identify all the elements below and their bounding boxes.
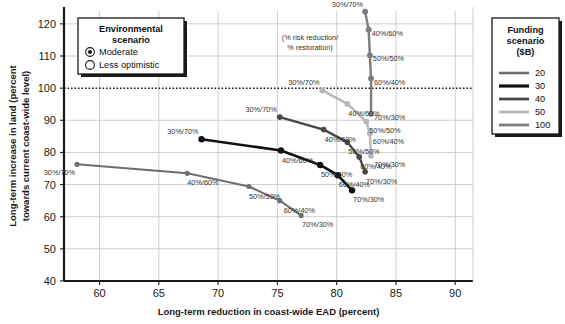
env-legend-title-line-2: scenario xyxy=(112,35,150,45)
funding-legend-title-line-1: Funding xyxy=(507,25,543,35)
env-radio-option-moderate[interactable]: Moderate xyxy=(86,47,138,57)
environmental-scenario-legend[interactable]: EnvironmentalscenarioModerateLess optimi… xyxy=(78,18,187,77)
data-point-label: 40%/60% xyxy=(282,156,314,165)
y-tick-label: 50 xyxy=(44,243,56,255)
data-point xyxy=(363,119,369,125)
radio-selected-dot-icon xyxy=(88,50,92,54)
data-point xyxy=(362,9,368,15)
data-point-label: 50%/50% xyxy=(369,126,401,135)
data-point-label: 70%/30% xyxy=(374,160,406,169)
y-tick-label: 110 xyxy=(38,50,56,62)
funding-legend-label: 100 xyxy=(535,120,550,130)
data-point xyxy=(320,87,326,93)
data-point-label: 30%/70% xyxy=(288,78,320,87)
funding-scenario-legend: Fundingscenario($B)20304050100 xyxy=(492,18,562,137)
x-tick-label: 90 xyxy=(449,287,461,299)
data-point xyxy=(278,147,284,153)
y-axis-tick-labels: 405060708090100110120 xyxy=(38,18,64,287)
x-tick-label: 60 xyxy=(93,287,105,299)
data-point-label: 50%/50% xyxy=(249,192,281,201)
data-point xyxy=(74,162,79,167)
data-point-label: 50%/50% xyxy=(348,147,380,156)
data-point xyxy=(277,114,283,120)
data-point-label: 30%/70% xyxy=(44,168,76,177)
data-point-label: 60%/40% xyxy=(284,206,316,215)
data-point xyxy=(344,101,350,107)
x-tick-label: 85 xyxy=(390,287,402,299)
chart-svg: 60657075808590 405060708090100110120 30%… xyxy=(0,0,565,324)
series-20 xyxy=(74,162,303,218)
funding-legend-label: 50 xyxy=(535,107,545,117)
y-axis-title-line-2: towards current coast-wide level) xyxy=(20,71,31,221)
data-point xyxy=(198,136,204,142)
data-point-label: 30%/70% xyxy=(246,105,278,114)
data-point-label: 70%/30% xyxy=(366,177,398,186)
data-point-label: 40%/60% xyxy=(187,178,219,187)
x-axis-tick-labels: 60657075808590 xyxy=(93,281,461,299)
data-point-label: 40%/60% xyxy=(325,135,357,144)
data-point-label: 30%/70% xyxy=(332,0,364,9)
data-point-label: 30%/70% xyxy=(167,127,199,136)
env-radio-label: Less optimistic xyxy=(99,60,160,70)
x-tick-label: 65 xyxy=(153,287,165,299)
y-tick-label: 60 xyxy=(44,211,56,223)
radio-circle-icon[interactable] xyxy=(86,61,95,70)
y-tick-label: 80 xyxy=(44,146,56,158)
y-tick-label: 70 xyxy=(44,179,56,191)
data-point-label: 60%/40% xyxy=(374,78,406,87)
x-tick-label: 75 xyxy=(271,287,283,299)
data-point-label: 50%/50% xyxy=(373,54,405,63)
funding-legend-title-line-3: ($B) xyxy=(517,47,535,57)
data-point xyxy=(317,162,323,168)
y-axis-title-line-1: Long-term increase in land (percent xyxy=(7,64,18,226)
data-point-label: 70%/30% xyxy=(302,220,334,229)
env-legend-title-line-1: Environmental xyxy=(99,24,163,34)
x-tick-label: 80 xyxy=(331,287,343,299)
chart-container: 60657075808590 405060708090100110120 30%… xyxy=(0,0,565,324)
y-tick-label: 90 xyxy=(44,114,56,126)
data-point-label: 60%/40% xyxy=(373,137,405,146)
data-point-label: 50%/50% xyxy=(321,170,353,179)
data-point-label: 40%/60% xyxy=(372,29,404,38)
y-tick-label: 120 xyxy=(38,18,56,30)
annotation-line-2: % restoration) xyxy=(287,43,332,52)
data-point xyxy=(185,171,190,176)
axis-titles: Long-term reduction in coast-wide EAD (p… xyxy=(7,64,379,317)
x-tick-label: 70 xyxy=(212,287,224,299)
chart-annotation: (% risk reduction/% restoration) xyxy=(282,33,339,52)
y-tick-label: 100 xyxy=(38,82,56,94)
annotation-line-1: (% risk reduction/ xyxy=(282,33,339,42)
y-tick-label: 40 xyxy=(44,275,56,287)
data-point-label: 70%/30% xyxy=(374,113,406,122)
data-point xyxy=(321,127,327,133)
funding-legend-label: 40 xyxy=(535,94,545,104)
data-point-label: 70%/30% xyxy=(353,195,385,204)
funding-legend-label: 20 xyxy=(535,68,545,78)
data-point xyxy=(246,184,251,189)
funding-legend-label: 30 xyxy=(535,81,545,91)
env-radio-label: Moderate xyxy=(99,47,138,57)
funding-legend-title-line-2: scenario xyxy=(507,36,545,46)
x-axis-title: Long-term reduction in coast-wide EAD (p… xyxy=(158,306,380,317)
